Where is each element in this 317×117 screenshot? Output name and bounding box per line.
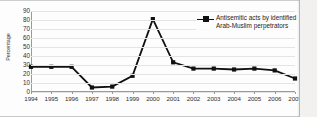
data-point-marker <box>252 67 256 71</box>
gridline <box>31 74 295 75</box>
legend-entry-label: Antisemitic acts by identified Arab-Musl… <box>216 14 299 29</box>
y-tick-label: 20 <box>16 71 30 77</box>
y-axis-title: Percentage <box>5 15 11 79</box>
x-tick-mark <box>31 92 32 94</box>
data-point-marker <box>191 67 195 71</box>
gridline <box>31 38 295 39</box>
gridline <box>31 47 295 48</box>
x-tick-mark <box>133 92 134 94</box>
gridline <box>31 11 295 12</box>
y-tick-label: 30 <box>16 62 30 68</box>
chart-legend: Antisemitic acts by identified Arab-Musl… <box>196 13 300 31</box>
x-tick-mark <box>295 92 296 94</box>
x-tick-mark <box>275 92 276 94</box>
x-tick-mark <box>173 92 174 94</box>
y-tick-label: 60 <box>16 35 30 41</box>
x-tick-mark <box>112 92 113 94</box>
data-point-marker <box>110 85 114 89</box>
data-point-marker <box>90 85 94 89</box>
x-tick-mark <box>193 92 194 94</box>
y-axis-title-wrapper: Percentage <box>2 8 12 92</box>
y-tick-label: 80 <box>16 17 30 23</box>
gridline <box>31 56 295 57</box>
gridline <box>31 92 295 93</box>
x-tick-mark <box>92 92 93 94</box>
x-tick-mark <box>234 92 235 94</box>
figure-bottom-border <box>0 116 300 117</box>
gridline <box>31 65 295 66</box>
figure-top-border <box>0 0 300 1</box>
x-tick-mark <box>153 92 154 94</box>
y-tick-label: 10 <box>16 80 30 86</box>
y-tick-label: 90 <box>16 8 30 14</box>
y-tick-label: 40 <box>16 53 30 59</box>
chart-container: Percentage 0102030405060708090 199419951… <box>0 0 317 117</box>
data-point-marker <box>232 67 236 71</box>
x-tick-mark <box>254 92 255 94</box>
data-point-marker <box>171 60 175 64</box>
data-point-marker <box>273 68 277 72</box>
x-tick-mark <box>51 92 52 94</box>
gridline <box>31 83 295 84</box>
data-point-marker <box>212 67 216 71</box>
x-tick-mark <box>72 92 73 94</box>
y-tick-label: 50 <box>16 44 30 50</box>
y-tick-label: 70 <box>16 26 30 32</box>
x-tick-mark <box>214 92 215 94</box>
scanned-page-edge <box>299 0 317 117</box>
line-square-marker-icon <box>197 15 214 23</box>
